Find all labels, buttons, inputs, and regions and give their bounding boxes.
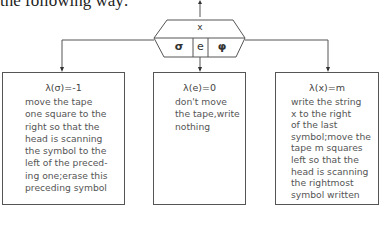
box-phi: λ(x)=m write the string x to the right o… (275, 72, 379, 205)
text-line: of the last (291, 119, 378, 131)
text-line: tape m squares (291, 142, 378, 154)
text-line: head is scanning (25, 133, 124, 145)
text-line: symbol;move the (291, 131, 378, 143)
text-line: x to the right (291, 108, 378, 120)
text-line: nothing (175, 121, 245, 133)
switch-symbol-sigma: σ (165, 40, 193, 53)
text-line: head is scanning (291, 166, 378, 178)
switch-input-label: x (193, 22, 207, 32)
lambda-e: λ(e)=0 (154, 82, 245, 93)
switch-symbol-e: e (193, 40, 208, 53)
lambda-sigma: λ(σ)=-1 (3, 82, 124, 93)
box-e-text: don't move the tape,write nothing (154, 96, 245, 133)
text-line: ing one;erase this (25, 170, 124, 182)
text-line: left of the preced- (25, 157, 124, 169)
lambda-x: λ(x)=m (276, 82, 378, 93)
switch-symbol-phi: φ (208, 40, 236, 53)
box-phi-text: write the string x to the right of the l… (276, 96, 378, 200)
text-line: the symbol to the (25, 145, 124, 157)
text-line: the rightmost (291, 177, 378, 189)
text-line: left so that the (291, 154, 378, 166)
text-line: preceding symbol (25, 182, 124, 194)
box-e: λ(e)=0 don't move the tape,write nothing (153, 72, 246, 205)
text-line: don't move (175, 96, 245, 108)
text-line: one square to the (25, 108, 124, 120)
text-line: move the tape (25, 96, 124, 108)
text-line: symbol written (291, 189, 378, 201)
text-line: the tape,write (175, 108, 245, 120)
box-sigma: λ(σ)=-1 move the tape one square to the … (2, 72, 125, 205)
text-line: right so that the (25, 121, 124, 133)
text-line: write the string (291, 96, 378, 108)
box-sigma-text: move the tape one square to the right so… (3, 96, 124, 194)
